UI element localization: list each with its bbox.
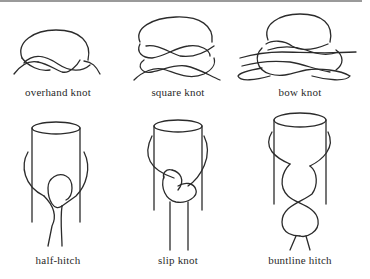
label-slip-knot: slip knot — [118, 254, 238, 266]
overhand-knot-drawing — [14, 30, 100, 74]
label-square-knot: square knot — [118, 86, 238, 98]
label-overhand-knot: overhand knot — [0, 86, 118, 98]
knot-diagram — [0, 0, 370, 279]
bow-knot-drawing — [238, 14, 356, 80]
square-knot-drawing — [134, 17, 220, 80]
label-bow-knot: bow knot — [240, 86, 360, 98]
label-buntline-hitch: buntline hitch — [240, 254, 360, 266]
buntline-hitch-drawing — [269, 113, 331, 250]
label-half-hitch: half-hitch — [0, 254, 118, 266]
half-hitch-drawing — [24, 122, 88, 246]
slip-knot-drawing — [148, 120, 208, 250]
